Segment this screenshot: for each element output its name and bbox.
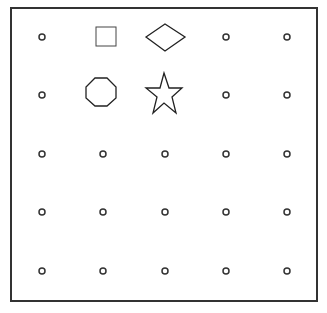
grid-dot: [100, 268, 106, 274]
grid-dot: [223, 268, 229, 274]
grid-dot: [162, 209, 168, 215]
grid-dot: [162, 268, 168, 274]
grid-dot: [39, 34, 45, 40]
square-shape: [96, 27, 116, 46]
diagram-canvas: [0, 0, 327, 313]
grid-dot: [223, 209, 229, 215]
grid-dot: [100, 151, 106, 157]
octagon-shape: [86, 78, 116, 106]
grid-dot: [162, 151, 168, 157]
star-shape: [146, 73, 182, 113]
grid-dot: [39, 268, 45, 274]
grid-dot: [284, 34, 290, 40]
grid-dot: [39, 209, 45, 215]
grid-dot: [284, 92, 290, 98]
grid-dot: [223, 151, 229, 157]
grid-dot: [223, 34, 229, 40]
grid-dot: [284, 209, 290, 215]
grid-dot: [39, 92, 45, 98]
grid-dot: [100, 209, 106, 215]
diamond-shape: [146, 24, 185, 51]
grid-dot: [39, 151, 45, 157]
grid-dot: [284, 151, 290, 157]
grid-dot: [223, 92, 229, 98]
frame-border: [11, 8, 317, 301]
grid-dot: [284, 268, 290, 274]
grid-dots: [39, 34, 290, 274]
shapes-layer: [86, 24, 185, 113]
